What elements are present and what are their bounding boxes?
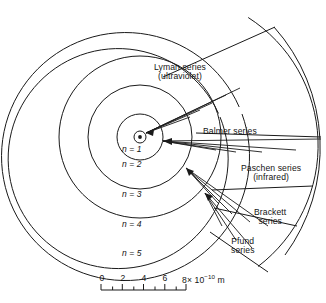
scale-unit-exponent: −10 (204, 273, 215, 280)
orbit-circles (2, 33, 250, 281)
sector-edge-paschen (212, 186, 313, 190)
series-label-lyman: Lyman series (ultraviolet) (154, 63, 206, 81)
series-label-pfund-line2: series (231, 246, 255, 255)
orbit-circle-n4 (8, 49, 228, 269)
scale-label-2: 2 (119, 274, 127, 283)
scale-label-4: 4 (140, 274, 148, 283)
bohr-model-figure: n = 1 n = 2 n = 3 n = 4 n = 5 Lyman seri… (0, 0, 326, 303)
balmer-transition-rays (163, 138, 321, 152)
scale-unit-label: 8× 10−10 m (182, 274, 225, 285)
orbit-label-n4: n = 4 (122, 220, 142, 229)
orbit-label-n5: n = 5 (122, 249, 142, 258)
scale-bar-graphic (101, 284, 186, 290)
nucleus (134, 131, 146, 143)
scale-unit-mantissa: × 10 (187, 275, 204, 285)
scale-label-6: 6 (161, 274, 169, 283)
series-label-balmer: Balmer series (203, 127, 257, 136)
series-label-lyman-line2: (ultraviolet) (154, 72, 206, 81)
series-label-brackett: Brackett series (254, 208, 286, 226)
series-label-pfund: Pfund series (231, 237, 255, 255)
outer-arc-n6 (248, 18, 318, 267)
scale-unit-suffix: m (215, 275, 225, 285)
outer-arcs (248, 18, 320, 267)
series-label-paschen-line2: (infrared) (241, 173, 301, 182)
bohr-diagram-svg (0, 0, 326, 303)
orbit-circle-n5 (2, 33, 250, 281)
nucleus-dot (138, 135, 142, 139)
orbit-label-n2: n = 2 (122, 160, 142, 169)
orbit-label-n3: n = 3 (122, 190, 142, 199)
scale-label-0: 0 (98, 274, 106, 283)
series-label-brackett-line2: series (254, 217, 286, 226)
series-label-balmer-line1: Balmer series (203, 127, 257, 136)
orbit-label-n1: n = 1 (122, 145, 142, 154)
series-label-paschen: Paschen series (infrared) (241, 164, 301, 182)
